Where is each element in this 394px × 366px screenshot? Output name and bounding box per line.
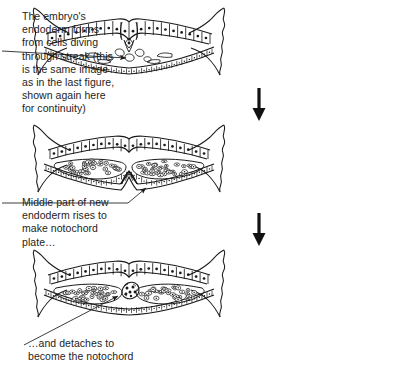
panel-embryo-streak (33, 8, 225, 75)
panel-embryo-notochord-plate (33, 125, 225, 192)
leader-line-caption-1 (2, 51, 126, 58)
leader-line-caption-2 (2, 188, 146, 203)
ectoderm-cells-panel-2 (50, 138, 208, 159)
mesoderm-cells-panel-3-right (139, 286, 197, 302)
ectoderm-cells-panel-3 (50, 263, 208, 284)
panel-embryo-notochord (33, 250, 225, 317)
stage-arrow-1 (253, 88, 266, 121)
embryology-diagram (0, 0, 394, 366)
stage-arrow-2 (253, 213, 266, 246)
mesoderm-cells-panel-2-left (64, 159, 122, 176)
